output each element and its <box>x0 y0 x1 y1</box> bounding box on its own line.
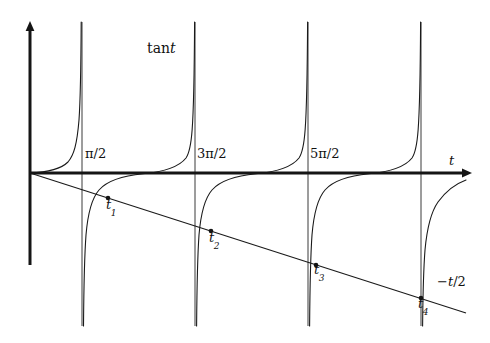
root-label-t2-subscript: 2 <box>214 241 220 251</box>
root-label-t2: t2 <box>209 231 220 248</box>
root-label-t4-subscript: 4 <box>423 307 429 317</box>
root-label-t3: t3 <box>314 263 325 280</box>
curve-label-tan-t: tant <box>147 41 176 55</box>
root-label-t4: t4 <box>418 297 429 314</box>
curve-label-function: tan <box>147 40 170 56</box>
tangent-line-intersection-figure: tant π/2 3π/2 5π/2 t −t/2 t1 t2 t3 t4 <box>0 0 490 343</box>
tangent-branch-0 <box>30 22 81 173</box>
t-axis <box>30 169 472 178</box>
y-axis <box>26 21 35 265</box>
t-axis-arrowhead <box>462 169 472 178</box>
curve-label-variable: t <box>170 40 176 56</box>
plot-canvas <box>0 0 490 343</box>
asymptote-label-5pi-over-2: 5π/2 <box>310 147 339 160</box>
negative-t-over-2-line <box>30 173 466 313</box>
line-label-negative-t-over-2: −t/2 <box>437 275 466 288</box>
asymptote-label-pi-over-2: π/2 <box>85 147 106 160</box>
root-label-t1-subscript: 1 <box>111 208 117 218</box>
tangent-branch-4 <box>423 180 466 326</box>
t-axis-label: t <box>449 154 454 167</box>
asymptote-label-3pi-over-2: 3π/2 <box>197 147 226 160</box>
root-label-t3-subscript: 3 <box>319 273 325 283</box>
y-axis-arrowhead <box>26 21 35 31</box>
line-label-minus-sign: − <box>437 274 448 289</box>
line-label-divisor: /2 <box>453 274 466 289</box>
root-label-t1: t1 <box>106 198 117 215</box>
